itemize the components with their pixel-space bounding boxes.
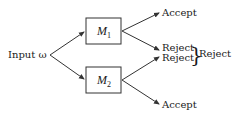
input-label: Input ω <box>8 49 47 60</box>
arrow-m1-to-reject <box>122 31 159 50</box>
machine-m1: M1 <box>86 18 121 44</box>
arrow-input-to-m1 <box>50 32 84 55</box>
m2-accept-label: Accept <box>161 99 197 110</box>
m1-accept-label: Accept <box>161 7 197 18</box>
combined-reject-label: Reject <box>199 48 231 59</box>
arrow-input-to-m2 <box>50 55 84 79</box>
arrow-m1-to-accept <box>122 13 159 31</box>
arrow-m2-to-reject <box>122 57 159 80</box>
diagram-canvas: Input ω M1 M2 Accept Reject Reject Accep… <box>0 0 237 116</box>
arrow-m2-to-accept <box>122 80 159 104</box>
machine-m2: M2 <box>86 67 121 93</box>
